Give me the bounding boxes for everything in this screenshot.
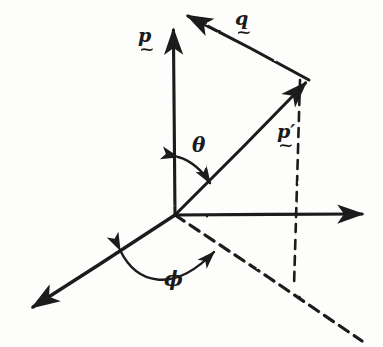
vector-p-line [173, 30, 175, 215]
axis-lower-left-line [33, 215, 175, 307]
axis-right-line [175, 214, 362, 215]
label-vector-q: q ~ [235, 9, 249, 40]
label-vector-p-tilde: ~ [139, 42, 155, 57]
axis-lower-right-dashed-line [175, 215, 362, 341]
label-angle-theta: θ [192, 135, 205, 155]
diagram-canvas: p ~ q ~ p′ ~ θ ϕ [0, 0, 383, 347]
drop-line-dashed [294, 80, 300, 286]
label-vector-q-tilde: ~ [236, 25, 252, 40]
label-vector-p-prime: p′ ~ [277, 122, 295, 153]
arc-theta [178, 157, 210, 183]
vector-diagram-figure [0, 0, 383, 347]
label-angle-phi: ϕ [164, 269, 183, 289]
label-vector-p: p ~ [138, 26, 152, 57]
label-vector-p-prime-tilde: ~ [278, 138, 300, 153]
